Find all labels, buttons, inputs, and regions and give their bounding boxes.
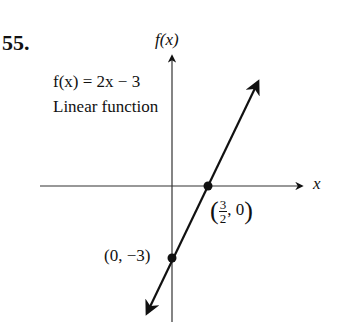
function-line-lower — [147, 186, 208, 313]
graph — [0, 0, 346, 328]
x-axis-label: x — [313, 174, 321, 194]
y-intercept-point — [168, 254, 177, 263]
y-intercept-label: (0, −3) — [104, 246, 150, 266]
function-line — [208, 82, 258, 186]
x-intercept-label: (32, 0) — [210, 196, 253, 226]
x-intercept-point — [204, 182, 213, 191]
